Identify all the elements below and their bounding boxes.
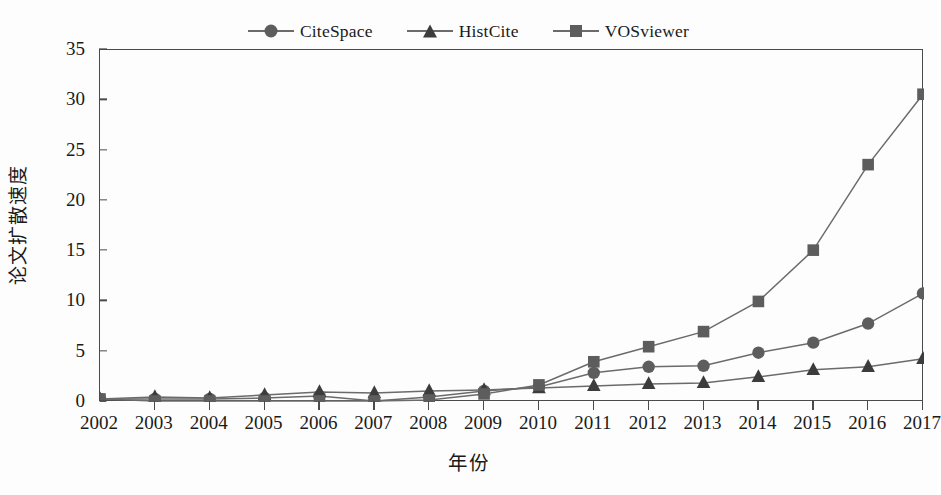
y-tick-label: 5: [76, 340, 86, 362]
x-tick-mark: [538, 401, 539, 410]
x-tick-label: 2017: [903, 412, 941, 434]
legend-label-vosviewer: VOSviewer: [605, 21, 689, 42]
x-tick-label: 2015: [793, 412, 831, 434]
y-tick-label: 10: [66, 289, 85, 311]
x-tick-label: 2012: [629, 412, 667, 434]
x-tick-mark: [593, 401, 594, 410]
x-tick-label: 2005: [245, 412, 283, 434]
x-tick-label: 2006: [299, 412, 337, 434]
x-tick-mark: [318, 401, 319, 410]
square-marker-icon: [570, 25, 582, 37]
x-tick-mark: [264, 401, 265, 410]
square-data-point: [917, 88, 924, 100]
y-tick-label: 35: [66, 38, 85, 60]
x-tick-label: 2008: [409, 412, 447, 434]
y-tick-label: 25: [66, 139, 85, 161]
x-tick-mark: [209, 401, 210, 410]
y-tick-mark: [99, 149, 107, 150]
x-tick-label: 2013: [684, 412, 722, 434]
x-tick-label: 2007: [354, 412, 392, 434]
series-citespace: [100, 287, 924, 402]
circle-data-point: [807, 336, 819, 348]
legend-item-citespace[interactable]: CiteSpace: [248, 21, 373, 42]
circle-data-point: [752, 347, 764, 359]
circle-data-point: [588, 367, 600, 379]
triangle-data-point: [587, 378, 601, 391]
x-tick-mark: [154, 401, 155, 410]
series-vosviewer: [100, 88, 924, 402]
x-tick-label: 2010: [519, 412, 557, 434]
y-tick-label: 30: [66, 88, 85, 110]
y-tick-mark: [99, 199, 107, 200]
triangle-data-point: [806, 362, 820, 375]
square-data-point: [862, 159, 874, 171]
series-line: [100, 293, 923, 401]
x-tick-mark: [373, 401, 374, 410]
y-tick-label: 0: [76, 390, 86, 412]
y-tick-mark: [99, 249, 107, 250]
square-data-point: [753, 296, 765, 308]
x-tick-label: 2002: [80, 412, 118, 434]
x-tick-mark: [867, 401, 868, 410]
square-data-point: [807, 244, 819, 256]
x-axis-title: 年份: [0, 447, 937, 476]
x-tick-mark: [812, 401, 813, 410]
square-data-point: [643, 341, 655, 353]
plot-area: [99, 49, 923, 401]
x-tick-label: 2009: [464, 412, 502, 434]
x-tick-label: 2014: [738, 412, 776, 434]
y-tick-mark: [99, 400, 107, 401]
y-tick-mark: [99, 48, 107, 49]
x-tick-label: 2003: [135, 412, 173, 434]
x-tick-mark: [483, 401, 484, 410]
square-data-point: [588, 356, 600, 368]
legend-label-citespace: CiteSpace: [300, 21, 373, 42]
y-tick-mark: [99, 300, 107, 301]
square-data-point: [478, 388, 490, 400]
x-tick-mark: [428, 401, 429, 410]
series-canvas: [100, 50, 924, 402]
circle-data-point: [697, 360, 709, 372]
x-tick-label: 2004: [190, 412, 228, 434]
circle-data-point: [862, 317, 874, 329]
square-data-point: [533, 379, 545, 391]
legend-item-vosviewer[interactable]: VOSviewer: [553, 21, 689, 42]
x-tick-mark: [648, 401, 649, 410]
x-tick-mark: [757, 401, 758, 410]
legend-label-histcite: HistCite: [459, 21, 519, 42]
legend-item-histcite[interactable]: HistCite: [407, 21, 519, 42]
triangle-marker-icon: [423, 25, 437, 38]
series-histcite: [100, 351, 924, 402]
legend-symbol-square: [553, 24, 599, 38]
legend-symbol-triangle: [407, 24, 453, 38]
legend-symbol-circle: [248, 24, 294, 38]
x-tick-label: 2016: [848, 412, 886, 434]
series-line: [100, 359, 923, 399]
series-line: [100, 94, 923, 401]
y-axis-title: 论文扩散速度: [3, 165, 30, 285]
x-tick-mark: [703, 401, 704, 410]
x-tick-mark: [922, 401, 923, 410]
y-tick-label: 20: [66, 189, 85, 211]
triangle-data-point: [916, 351, 924, 364]
circle-marker-icon: [264, 25, 277, 38]
square-data-point: [698, 326, 710, 338]
y-tick-mark: [99, 350, 107, 351]
circle-data-point: [917, 287, 924, 299]
triangle-data-point: [642, 376, 656, 389]
circle-data-point: [642, 361, 654, 373]
chart-legend: CiteSpace HistCite VOSviewer: [0, 16, 937, 46]
y-tick-mark: [99, 99, 107, 100]
y-tick-label: 15: [66, 239, 85, 261]
x-tick-label: 2011: [574, 412, 611, 434]
